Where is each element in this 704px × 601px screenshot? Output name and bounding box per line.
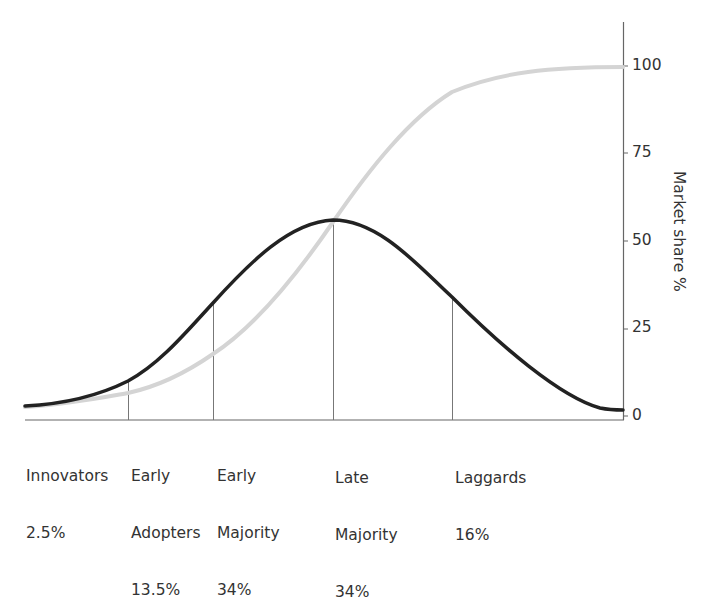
segment-dividers bbox=[129, 220, 453, 420]
segment-label-early-adopters: Early Adopters 13.5% bbox=[131, 429, 201, 601]
y-tick-50: 50 bbox=[632, 231, 652, 249]
segment-label-early-majority: Early Majority 34% bbox=[217, 429, 280, 601]
segment-label-late-majority: Late Majority 34% bbox=[335, 431, 398, 601]
cumulative-s-curve bbox=[25, 67, 623, 407]
segment-label-innovators: Innovators 2.5% bbox=[26, 429, 108, 562]
y-tick-100: 100 bbox=[632, 56, 662, 74]
adoption-bell-curve bbox=[25, 220, 623, 410]
y-tick-25: 25 bbox=[632, 318, 652, 336]
y-axis-label: Market share % bbox=[670, 171, 688, 292]
y-tick-75: 75 bbox=[632, 143, 652, 161]
y-tick-0: 0 bbox=[632, 406, 642, 424]
segment-label-laggards: Laggards 16% bbox=[455, 431, 526, 564]
